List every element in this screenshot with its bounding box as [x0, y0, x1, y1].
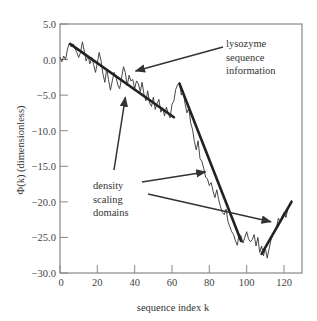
x-axis-ticks: 020406080100120	[58, 265, 292, 288]
annotation-density-text: scaling	[93, 194, 123, 205]
annotation-lysozyme-text: information	[226, 65, 276, 76]
y-tick-label: −30.0	[32, 268, 56, 279]
arrow-lysozyme	[136, 47, 223, 71]
y-tick-label: −20.0	[32, 197, 56, 208]
fit-line	[180, 84, 242, 241]
x-axis-label: sequence index k	[137, 302, 210, 313]
y-tick-label: 0.0	[43, 55, 56, 66]
x-tick-label: 100	[239, 277, 255, 288]
x-tick-label: 80	[204, 277, 215, 288]
x-tick-label: 40	[129, 277, 140, 288]
y-tick-label: 5.0	[43, 19, 56, 30]
arrow-domain-3	[148, 194, 271, 222]
x-tick-label: 60	[167, 277, 178, 288]
y-tick-label: −5.0	[37, 90, 56, 101]
fit-line	[70, 44, 174, 117]
annotation-lysozyme-text: lysozyme	[226, 38, 267, 49]
annotation-density-text: density	[93, 180, 124, 191]
y-tick-label: −15.0	[32, 161, 56, 172]
x-tick-label: 0	[58, 277, 63, 288]
arrow-domain-1	[114, 97, 125, 170]
x-tick-label: 120	[276, 277, 292, 288]
y-tick-label: −25.0	[32, 232, 56, 243]
x-tick-label: 20	[92, 277, 103, 288]
annotation-lysozyme-text: sequence	[226, 52, 265, 63]
y-axis-label: Φ(k) (dimensionless)	[15, 105, 27, 195]
arrow-domain-2	[142, 172, 206, 182]
fit-line	[262, 202, 292, 254]
annotation-density-text: domains	[93, 207, 129, 218]
y-axis-ticks: 5.00.0−5.0−10.0−15.0−20.0−25.0−30.0	[32, 19, 68, 279]
y-tick-label: −10.0	[32, 126, 56, 137]
chart: 5.00.0−5.0−10.0−15.0−20.0−25.0−30.0 0204…	[0, 0, 317, 321]
annotations: lysozymesequenceinformationdensityscalin…	[93, 38, 276, 222]
